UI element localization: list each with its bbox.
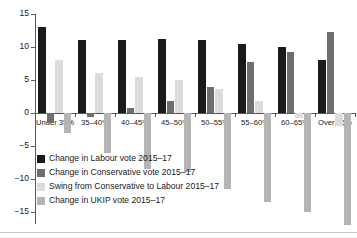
- x-axis-tick: [195, 113, 196, 117]
- legend-label-swing: Swing from Conservative to Labour 2015–1…: [49, 180, 219, 193]
- bar: [344, 113, 352, 225]
- y-axis-tick-label: −10: [3, 174, 29, 183]
- y-axis-tick-label: 5: [3, 75, 29, 84]
- bar: [55, 60, 63, 113]
- bar: [255, 101, 263, 113]
- bar: [78, 40, 86, 113]
- bar: [198, 40, 206, 113]
- x-axis-tick: [355, 113, 356, 117]
- y-axis-tick: [31, 146, 35, 147]
- x-axis-tick: [35, 113, 36, 117]
- x-axis-tick: [235, 113, 236, 117]
- y-axis-tick: [31, 80, 35, 81]
- bar: [87, 113, 95, 117]
- x-axis-tick: [315, 113, 316, 117]
- x-axis-tick: [275, 113, 276, 117]
- bar: [295, 113, 303, 118]
- bar-chart: 151050−5−10−15−20 Under 35%35–40%40–45%4…: [0, 0, 357, 238]
- legend-label-conservative: Change in Conservative vote 2015–17: [49, 166, 195, 179]
- bar: [224, 113, 232, 189]
- y-axis-tick: [31, 14, 35, 15]
- y-axis-tick: [31, 212, 35, 213]
- bar: [38, 27, 46, 113]
- bar: [327, 32, 335, 113]
- x-axis-tick: [115, 113, 116, 117]
- legend-swatch-swing: [37, 183, 45, 191]
- bar: [104, 113, 112, 153]
- bar: [64, 113, 72, 133]
- bar: [207, 87, 215, 113]
- bottom-divider: [0, 232, 357, 233]
- bar: [304, 113, 312, 212]
- x-axis-tick: [75, 113, 76, 117]
- bar: [264, 113, 272, 202]
- y-axis-tick-label: 0: [3, 108, 29, 117]
- legend-swatch-labour: [37, 155, 45, 163]
- bar: [47, 113, 55, 123]
- bar: [167, 101, 175, 113]
- bar: [247, 62, 255, 113]
- x-axis-tick: [155, 113, 156, 117]
- bar: [158, 39, 166, 113]
- y-axis-tick: [31, 179, 35, 180]
- bar: [127, 108, 135, 113]
- y-axis-tick-label: −15: [3, 207, 29, 216]
- y-axis-tick-label: 15: [3, 9, 29, 18]
- legend-label-labour: Change in Labour vote 2015–17: [49, 152, 172, 165]
- bar: [95, 73, 103, 113]
- y-axis-tick: [31, 47, 35, 48]
- legend-label-ukip: Change in UKIP vote 2015–17: [49, 194, 165, 207]
- legend-swatch-ukip: [37, 197, 45, 205]
- bar: [175, 80, 183, 113]
- y-axis-tick-label: 10: [3, 42, 29, 51]
- bar: [287, 52, 295, 113]
- bar: [278, 47, 286, 113]
- bar: [318, 60, 326, 113]
- bar: [335, 113, 343, 126]
- bar: [215, 89, 223, 113]
- bar: [238, 44, 246, 113]
- legend-swatch-conservative: [37, 169, 45, 177]
- bar: [184, 113, 192, 172]
- bar: [118, 40, 126, 113]
- y-axis-tick-label: −5: [3, 141, 29, 150]
- bar: [135, 77, 143, 113]
